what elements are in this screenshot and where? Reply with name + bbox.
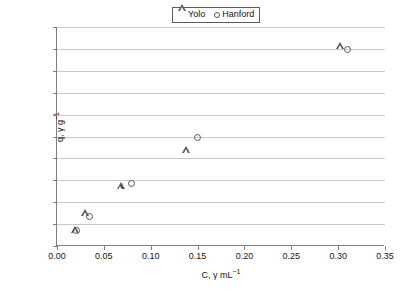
x-tick-label: 0.30: [318, 252, 358, 261]
x-tick-label: 0.05: [84, 252, 124, 261]
gridline: [57, 224, 385, 225]
y-tick-mark: [53, 27, 57, 28]
legend-label-yolo: Yolo: [188, 9, 205, 20]
gridline: [57, 202, 385, 203]
plot-area: 0.020.040.060.080.0100.0120.0140.0160.01…: [56, 27, 384, 246]
x-tick-label: 0.25: [271, 252, 311, 261]
x-tick-label: 0.10: [131, 252, 171, 261]
x-axis-title-exponent: −1: [233, 268, 241, 275]
x-tick-label: 0.15: [178, 252, 218, 261]
x-tick-label: 0.35: [365, 252, 403, 261]
x-tick-mark: [198, 246, 199, 250]
triangle-marker-icon: [178, 11, 186, 18]
x-tick-mark: [338, 246, 339, 250]
triangle-marker-inner-icon: [338, 45, 342, 49]
x-tick-label: 0.00: [37, 252, 77, 261]
x-tick-mark: [291, 246, 292, 250]
gridline: [57, 137, 385, 138]
triangle-marker-inner-icon: [184, 149, 188, 153]
circle-marker-icon: [344, 46, 351, 53]
gridline: [57, 71, 385, 72]
legend-entry-yolo: Yolo: [178, 9, 205, 20]
x-tick-label: 0.20: [224, 252, 264, 261]
chart-legend: Yolo Hanford: [172, 7, 260, 23]
x-tick-mark: [244, 246, 245, 250]
y-tick-mark: [53, 224, 57, 225]
triangle-marker-inner-icon: [118, 186, 122, 190]
circle-marker-icon: [214, 12, 220, 18]
y-axis-title-text: q, γ g: [55, 120, 65, 142]
gridline: [57, 180, 385, 181]
x-tick-mark: [385, 246, 386, 250]
gridline: [57, 93, 385, 94]
circle-marker-icon: [128, 180, 135, 187]
x-axis-title-text: C, γ mL: [202, 270, 233, 280]
y-tick-mark: [53, 180, 57, 181]
legend-label-hanford: Hanford: [222, 9, 254, 20]
legend-entry-hanford: Hanford: [214, 9, 254, 20]
x-axis-title: C, γ mL−1: [57, 270, 385, 280]
gridline: [57, 158, 385, 159]
y-tick-mark: [53, 71, 57, 72]
x-tick-mark: [151, 246, 152, 250]
circle-marker-icon: [194, 134, 201, 141]
x-tick-mark: [104, 246, 105, 250]
circle-marker-icon: [86, 213, 93, 220]
gridline: [57, 115, 385, 116]
scatter-chart: Yolo Hanford 0.020.040.060.080.0100.0120…: [0, 0, 403, 291]
y-tick-mark: [53, 49, 57, 50]
x-tick-mark: [57, 246, 58, 250]
y-axis-title-exponent: −1: [53, 112, 60, 120]
y-axis-title: q, γ g−1: [55, 82, 65, 172]
circle-marker-icon: [73, 227, 80, 234]
y-tick-mark: [53, 202, 57, 203]
gridline: [57, 27, 385, 28]
